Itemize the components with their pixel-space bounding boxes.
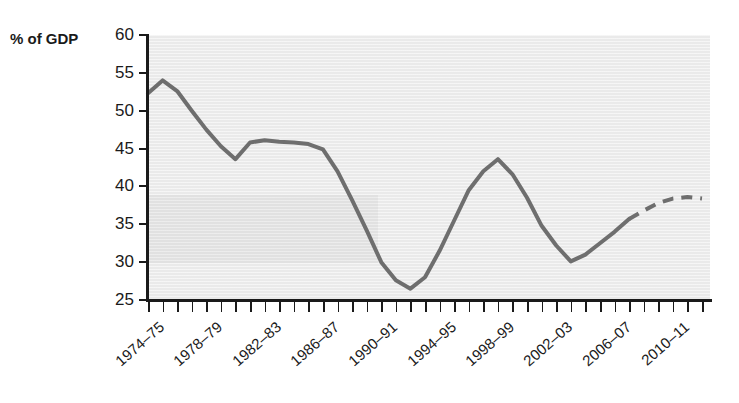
x-tick-mark: [279, 301, 281, 312]
x-tick-mark: [483, 301, 485, 312]
series-line-public-spending-projected: [629, 197, 702, 219]
y-tick-label: 50: [100, 101, 134, 121]
x-tick-label: 2010–11: [638, 318, 692, 368]
x-tick-label: 1978–79: [170, 318, 225, 369]
y-tick-label: 25: [100, 290, 134, 310]
x-tick-mark: [308, 301, 310, 312]
chart-figure: % of GDP 2530354045505560 1974–751978–79…: [0, 0, 739, 403]
x-tick-mark: [469, 301, 471, 312]
y-tick-label: 45: [100, 139, 134, 159]
y-tick-label: 40: [100, 176, 134, 196]
x-tick-mark: [250, 301, 252, 312]
x-tick-mark: [571, 301, 573, 312]
x-tick-mark: [687, 301, 689, 312]
x-tick-mark: [265, 301, 267, 312]
data-series-group: [148, 35, 710, 300]
x-tick-mark: [629, 301, 631, 312]
plot-area: [148, 35, 710, 300]
x-tick-mark: [396, 301, 398, 312]
y-tick-label: 60: [100, 25, 134, 45]
x-tick-mark: [206, 301, 208, 312]
series-line-public-spending: [148, 80, 629, 288]
x-tick-mark: [192, 301, 194, 312]
x-tick-mark: [410, 301, 412, 312]
x-tick-mark: [338, 301, 340, 312]
x-tick-mark: [440, 301, 442, 312]
x-tick-label: 1990–91: [345, 318, 400, 369]
y-tick-label: 30: [100, 252, 134, 272]
x-tick-label: 1986–87: [287, 318, 342, 369]
x-tick-mark: [323, 301, 325, 312]
x-tick-mark: [425, 301, 427, 312]
x-tick-label: 2002–03: [520, 318, 575, 369]
y-tick-label: 55: [100, 63, 134, 83]
y-axis-line: [146, 34, 149, 302]
y-tick-label: 35: [100, 214, 134, 234]
x-tick-mark: [367, 301, 369, 312]
x-tick-mark: [294, 301, 296, 312]
x-tick-mark: [615, 301, 617, 312]
x-tick-mark: [454, 301, 456, 312]
x-tick-mark: [556, 301, 558, 312]
x-tick-mark: [702, 301, 704, 312]
x-tick-mark: [177, 301, 179, 312]
x-tick-mark: [658, 301, 660, 312]
x-tick-mark: [148, 301, 150, 312]
x-tick-label: 2006–07: [578, 318, 633, 369]
x-tick-label: 1994–95: [403, 318, 458, 369]
x-tick-mark: [512, 301, 514, 312]
x-tick-mark: [235, 301, 237, 312]
x-tick-mark: [352, 301, 354, 312]
y-axis-title: % of GDP: [10, 30, 78, 47]
x-tick-mark: [542, 301, 544, 312]
x-tick-mark: [644, 301, 646, 312]
x-tick-mark: [221, 301, 223, 312]
x-axis-line: [146, 299, 712, 302]
x-tick-label: 1998–99: [462, 318, 517, 369]
x-tick-mark: [585, 301, 587, 312]
x-tick-mark: [600, 301, 602, 312]
x-tick-mark: [498, 301, 500, 312]
x-tick-mark: [673, 301, 675, 312]
x-tick-label: 1982–83: [229, 318, 284, 369]
x-tick-mark: [527, 301, 529, 312]
x-tick-mark: [163, 301, 165, 312]
x-tick-mark: [381, 301, 383, 312]
